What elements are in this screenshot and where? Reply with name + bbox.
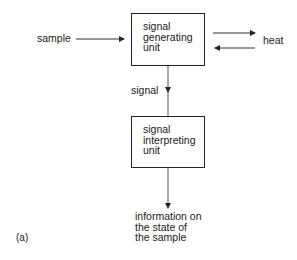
signal-generating-unit-box: signal generating unit xyxy=(131,13,205,66)
signal-link-label: signal xyxy=(131,85,158,96)
output-line3: the sample xyxy=(135,232,202,243)
heat-label: heat xyxy=(263,35,283,46)
signal-interpreting-unit-box: signal interpreting unit xyxy=(131,116,205,168)
panel-label: (a) xyxy=(16,232,28,243)
output-line1: information on xyxy=(135,211,202,222)
generating-unit-line3: unit xyxy=(143,42,204,53)
sample-label: sample xyxy=(37,33,71,44)
generating-unit-line1: signal xyxy=(143,21,204,32)
interpreting-unit-line3: unit xyxy=(143,145,204,156)
interpreting-unit-line1: signal xyxy=(143,124,204,135)
output-information-label: information on the state of the sample xyxy=(135,211,202,243)
